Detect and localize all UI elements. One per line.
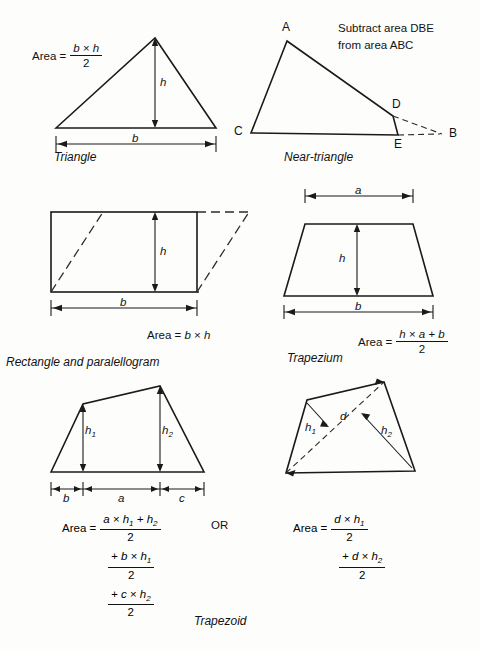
rect-height-label: h [160,245,166,257]
or-connector: OR [211,519,228,531]
trapezoid-right-d-label: d [340,410,346,422]
trapezoid-right-h2-label: h2 [381,424,392,439]
triangle-area-formula: Area = b × h 2 [32,42,102,69]
trapezium-denominator: 2 [419,342,425,355]
trapezoid-right-h1-label: h1 [305,421,316,436]
trapezium-area-label: Area = [358,336,392,348]
trapezoid-left-fraction-1: a × h1 + h2 2 [100,513,160,543]
rect-area-formula: Area = b × h [147,328,210,342]
trapezoid-left-numerator-3: + c × h2 [108,588,154,605]
trapezium-fraction: h × a + b 2 [396,328,447,355]
trapezoid-left-term-1: Area = a × h1 + h2 2 [62,513,161,543]
trapezium-caption: Trapezium [287,351,343,365]
trapezoid-right-denominator-2: 2 [359,568,365,581]
vertex-label-c: C [234,124,243,138]
trapezium-base-label: b [355,300,361,312]
trapezoid-right-numerator-2: + d × h2 [339,550,385,567]
trapezoid-left-term-2: + b × h1 2 [108,550,161,580]
trapezoid-left-denominator-1: 2 [127,530,133,543]
near-triangle-note-line1: Subtract area DBE [338,22,434,34]
near-triangle-note: Subtract area DBEfrom area ABC [338,20,434,53]
trapezoid-left-denominator-3: 2 [128,605,134,618]
trapezoid-left-h2-label: h2 [162,424,173,439]
trapezoid-left-fraction-3: + c × h2 2 [108,588,154,618]
trapezoid-left-c-label: c [179,492,185,504]
trapezoid-right-numerator-1: d × h1 [331,513,367,530]
near-triangle-figure [251,41,442,135]
triangle-area-label: Area = [32,50,66,62]
vertex-label-e: E [394,137,402,151]
trapezium-height-label: h [339,252,345,264]
trapezium-numerator: h × a + b [396,328,447,342]
trapezoid-caption: Trapezoid [194,614,246,628]
triangle-fraction: b × h 2 [70,42,102,69]
trapezoid-left-h1-label: h1 [85,424,96,439]
trapezoid-left-denominator-2: 2 [128,568,134,581]
trapezoid-left-formula-stack: Area = a × h1 + h2 2 + b × h1 2 + c × h2… [62,513,161,618]
triangle-caption: Triangle [54,150,96,164]
trapezoid-left-b-label: b [63,492,69,504]
near-triangle-note-line2: from area ABC [338,39,413,51]
vertex-label-d: D [392,97,401,111]
trapezoid-right-term-2: + d × h2 2 [339,550,385,580]
triangle-denominator: 2 [83,56,89,69]
rect-base-label: b [120,296,126,308]
trapezium-area-formula: Area = h × a + b 2 [358,328,448,355]
trapezoid-right-formula-stack: Area = d × h1 2 + d × h2 2 [293,513,385,581]
triangle-base-label: b [132,132,138,144]
trapezoid-right-fraction-1: d × h1 2 [331,513,367,543]
trapezoid-left-a-label: a [118,492,124,504]
trapezoid-left-fraction-2: + b × h1 2 [108,550,154,580]
triangle-height-label: h [160,76,166,88]
vertex-label-a: A [282,20,290,34]
rectangle-parallelogram-figure [51,212,249,316]
triangle-numerator: b × h [70,42,102,56]
trapezoid-left-numerator-2: + b × h1 [108,550,154,567]
trapezoid-right-fraction-2: + d × h2 2 [339,550,385,580]
trapezium-top-label: a [355,184,361,196]
trapezoid-left-numerator-1: a × h1 + h2 [100,513,160,530]
trapezoid-right-denominator-1: 2 [346,530,352,543]
trapezoid-right-area-label: Area = [293,522,327,534]
trapezoid-right-term-1: Area = d × h1 2 [293,513,385,543]
trapezoid-left-figure [51,386,204,496]
diagram-page: Area = b × h 2 h b Triangle Subtract are… [0,0,480,649]
vertex-label-b: B [449,126,457,140]
trapezoid-left-term-3: + c × h2 2 [108,588,161,618]
near-triangle-caption: Near-triangle [284,150,353,164]
rect-caption: Rectangle and paralellogram [6,355,159,369]
trapezoid-left-area-label: Area = [62,522,96,534]
